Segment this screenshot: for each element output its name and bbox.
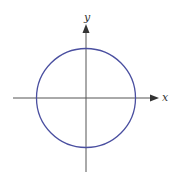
x-axis-arrow-icon <box>150 95 159 102</box>
coordinate-plane <box>0 0 176 173</box>
x-axis-label: x <box>162 92 168 103</box>
y-axis-label: y <box>84 12 90 23</box>
y-axis-arrow-icon <box>83 24 90 33</box>
